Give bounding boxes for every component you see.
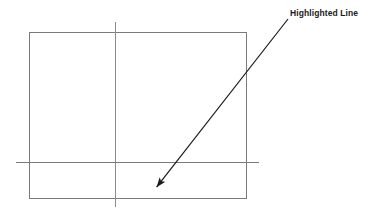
highlighted-line-label: Highlighted Line: [290, 8, 358, 19]
callout-arrow: [157, 19, 288, 187]
outline-rectangle: [30, 33, 247, 199]
diagram-figure: [0, 0, 372, 217]
diagram-canvas: Highlighted Line: [0, 0, 372, 217]
